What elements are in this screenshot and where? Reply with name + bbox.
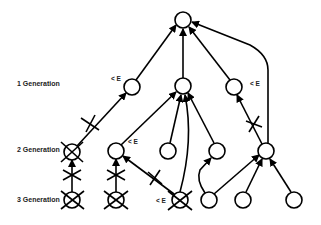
edge-g3c-g1b: [180, 95, 189, 192]
cut-mark-g3c-g2b: [148, 170, 162, 185]
generation-label-3: 3 Generation: [17, 196, 60, 203]
energy-tag-g3c: < E: [156, 197, 166, 204]
energy-tag-g1c: < E: [250, 80, 260, 87]
node-g1c: [226, 79, 242, 95]
edge-g1a-root: [136, 25, 176, 80]
genealogy-tree-diagram: [0, 0, 321, 225]
edge-g2c-g1b: [170, 95, 181, 143]
node-g3e: [235, 192, 251, 208]
edge-g3f-g2e: [270, 159, 291, 192]
edge-g3d-g2e: [214, 155, 259, 194]
node-g2b: [108, 143, 124, 159]
node-g2c: [160, 143, 176, 159]
generation-label-1: 1 Generation: [17, 80, 60, 87]
generation-label-2: 2 Generation: [17, 146, 60, 153]
node-g3d: [201, 192, 217, 208]
edge-g3d-g2d: [199, 158, 211, 193]
node-g1b: [175, 78, 191, 94]
edge-g2d-g1b: [188, 93, 214, 143]
node-root: [175, 12, 191, 28]
node-g2e: [258, 143, 274, 159]
energy-tag-g2b: < E: [128, 138, 138, 145]
node-g2d: [209, 143, 225, 159]
edge-g3c-g2b: [123, 156, 174, 194]
cut-mark-g2a-g1a: [81, 115, 99, 132]
energy-tag-g1a: < E: [111, 75, 121, 82]
node-g1a: [124, 79, 140, 95]
node-g3f: [286, 192, 302, 208]
edge-g2e-g1c: [237, 95, 262, 144]
